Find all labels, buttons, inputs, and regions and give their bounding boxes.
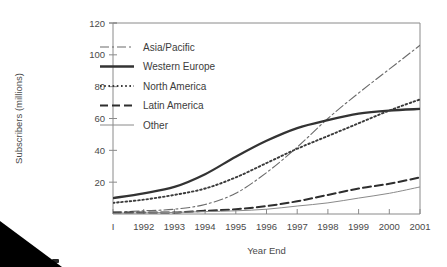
x-tick-label: 1995	[225, 221, 246, 232]
legend-label-asia-pacific: Asia/Pacific	[143, 42, 195, 53]
x-tick-label: 1993	[164, 221, 185, 232]
y-tick-label: 60	[94, 113, 105, 124]
x-tick-label: 1999	[348, 221, 369, 232]
x-tick-label: 1998	[317, 221, 338, 232]
x-axis-title: Year End	[247, 245, 286, 256]
x-tick-label: 1994	[195, 221, 216, 232]
x-tick-label: I	[112, 221, 115, 232]
legend-label-western-europe: Western Europe	[143, 61, 216, 72]
legend-label-latin-america: Latin America	[143, 100, 204, 111]
y-tick-label: 40	[94, 145, 105, 156]
series-line-latin-america	[113, 177, 420, 212]
x-tick-label: 2000	[379, 221, 400, 232]
x-tick-label: 1996	[256, 221, 277, 232]
y-tick-label: 100	[89, 49, 105, 60]
legend-label-north-america: North America	[143, 81, 207, 92]
scan-artifact-speck	[52, 259, 59, 263]
y-tick-label: 120	[89, 18, 105, 29]
legend-label-other: Other	[143, 120, 169, 131]
figure-canvas: 20406080100120I1992199319941995199619971…	[0, 0, 447, 267]
subscriber-growth-line-chart: 20406080100120I1992199319941995199619971…	[0, 0, 447, 267]
y-tick-label: 20	[94, 177, 105, 188]
x-tick-label: 1997	[287, 221, 308, 232]
y-tick-label: 80	[94, 81, 105, 92]
series-line-north-america	[113, 99, 420, 202]
x-tick-label: 1992	[133, 221, 154, 232]
y-axis-title: Subscribers (millions)	[13, 73, 24, 164]
x-tick-label: 2001	[409, 221, 430, 232]
